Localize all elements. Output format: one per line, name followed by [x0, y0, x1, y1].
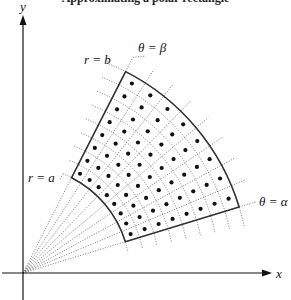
- sample-point: [96, 166, 100, 170]
- sample-point: [130, 81, 134, 85]
- sample-point: [171, 157, 175, 161]
- grid-arc: [108, 63, 244, 226]
- coordinate-axes: [2, 15, 272, 300]
- sample-point: [100, 133, 104, 137]
- leader-theta-beta: [133, 56, 146, 57]
- sample-point: [148, 175, 152, 179]
- label-theta-equals-beta: θ = β: [138, 40, 167, 55]
- sample-point: [116, 163, 120, 167]
- sample-point: [160, 166, 164, 170]
- sample-point: [136, 140, 140, 144]
- sample-point: [93, 146, 97, 150]
- sample-point: [191, 189, 195, 193]
- sample-point: [226, 197, 230, 201]
- grid-ray: [23, 179, 246, 273]
- sample-point: [169, 180, 173, 184]
- sample-point: [208, 157, 212, 161]
- sample-point: [137, 163, 141, 167]
- sample-point: [170, 217, 174, 221]
- sample-point: [127, 173, 131, 177]
- sample-point: [148, 93, 152, 97]
- sample-point: [157, 222, 161, 226]
- sample-point: [205, 183, 209, 187]
- sample-point: [78, 172, 82, 176]
- sample-points: [78, 81, 231, 236]
- sample-point: [88, 178, 92, 182]
- sample-point: [198, 207, 202, 211]
- sample-point: [156, 118, 160, 122]
- sample-point: [97, 185, 101, 189]
- sample-point: [159, 142, 163, 146]
- sample-point: [119, 211, 123, 215]
- sample-point: [137, 215, 141, 219]
- sample-point: [212, 202, 216, 206]
- sample-point: [170, 132, 174, 136]
- sample-point: [85, 159, 89, 163]
- sample-point: [165, 107, 169, 111]
- polar-rectangle-diagram: x y r = a r = b θ = β θ = α: [0, 0, 291, 300]
- sample-point: [124, 221, 128, 225]
- sample-point: [148, 153, 152, 157]
- sample-point: [195, 139, 199, 143]
- y-axis-label: y: [18, 0, 26, 14]
- sample-point: [144, 196, 148, 200]
- sample-point: [122, 130, 126, 134]
- sample-point: [218, 176, 222, 180]
- x-axis-label: x: [275, 266, 282, 281]
- sample-point: [195, 165, 199, 169]
- sample-point: [106, 174, 110, 178]
- sample-point: [146, 129, 150, 133]
- sample-point: [122, 94, 126, 98]
- sample-point: [112, 202, 116, 206]
- label-r-equals-b: r = b: [84, 52, 111, 67]
- label-r-equals-a: r = a: [28, 170, 55, 185]
- sample-point: [164, 202, 168, 206]
- grid-ray: [23, 100, 192, 273]
- x-axis-arrow-icon: [262, 270, 272, 277]
- sample-point: [115, 107, 119, 111]
- sample-point: [105, 193, 109, 197]
- y-axis-arrow-icon: [20, 15, 27, 25]
- sample-point: [140, 105, 144, 109]
- grid-arc: [97, 91, 215, 232]
- label-theta-equals-alpha: θ = α: [259, 194, 289, 209]
- sample-point: [181, 122, 185, 126]
- sample-point: [105, 154, 109, 158]
- sample-point: [178, 196, 182, 200]
- sample-point: [114, 142, 118, 146]
- sample-point: [131, 204, 135, 208]
- polar-rectangle-outline: [72, 72, 240, 242]
- polar-rectangle-boundary: [72, 72, 240, 242]
- sample-point: [182, 173, 186, 177]
- grid-ray: [23, 117, 208, 273]
- sample-point: [116, 183, 120, 187]
- sample-point: [157, 188, 161, 192]
- sample-point: [184, 212, 188, 216]
- sample-point: [183, 148, 187, 152]
- sample-point: [151, 209, 155, 213]
- sample-point: [126, 152, 130, 156]
- leader-r-a: [60, 174, 63, 179]
- sample-point: [124, 193, 128, 197]
- sample-point: [131, 117, 135, 121]
- sample-point: [108, 120, 112, 124]
- sample-point: [143, 227, 147, 231]
- grid-arc: [102, 77, 229, 229]
- sample-point: [129, 232, 133, 236]
- sample-point: [136, 184, 140, 188]
- grid-ray: [23, 137, 223, 273]
